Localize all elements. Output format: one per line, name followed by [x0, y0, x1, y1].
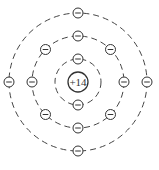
- electron: [106, 110, 116, 120]
- electron: [27, 77, 37, 87]
- electron: [4, 77, 14, 87]
- electron: [41, 45, 51, 55]
- electron: [41, 110, 51, 120]
- electron: [73, 146, 83, 156]
- electron: [73, 31, 83, 41]
- electron: [119, 77, 129, 87]
- nucleus: +14: [68, 72, 88, 92]
- electron: [142, 77, 152, 87]
- electron: [73, 123, 83, 133]
- electron: [73, 54, 83, 64]
- electron: [73, 8, 83, 18]
- bohr-atom-diagram: +14: [0, 0, 159, 170]
- electron: [73, 100, 83, 110]
- nucleus-charge-label: +14: [69, 76, 87, 88]
- electron: [106, 45, 116, 55]
